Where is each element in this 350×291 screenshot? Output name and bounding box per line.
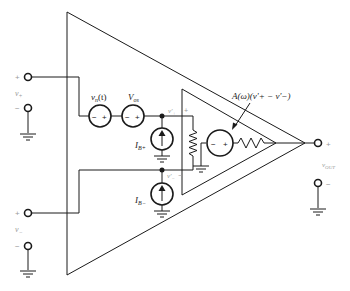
inner-opamp-triangle (182, 89, 276, 195)
svg-text:−: − (92, 113, 97, 122)
svg-text:−: − (125, 113, 130, 122)
bias-plus-label: IB+ (134, 140, 146, 151)
dependent-voltage-source: − + (207, 130, 233, 156)
v-plus-prime-sign: + (184, 107, 188, 114)
v-minus-minus-sign: − (15, 242, 20, 251)
v-minus-plus-sign: + (15, 209, 20, 218)
ground-icon (154, 156, 170, 162)
output-plus-sign: + (326, 140, 331, 149)
output-terminals: + − vOUT (310, 140, 336, 216)
wire-v-minus (32, 170, 163, 213)
v-minus-input: + − v− (15, 209, 36, 277)
svg-text:+: + (135, 113, 140, 122)
v-plus-plus-sign: + (15, 73, 20, 82)
v-plus-ref-terminal[interactable] (25, 105, 32, 112)
ground-icon (193, 166, 209, 172)
ground-icon (154, 211, 170, 217)
v-minus-ref-terminal[interactable] (25, 243, 32, 250)
bias-minus-label: IB− (134, 195, 146, 206)
offset-voltage-source: − + Vos (122, 92, 144, 127)
v-plus-minus-sign: − (15, 104, 20, 113)
v-plus-input: + − v+ (15, 73, 36, 140)
output-ref-terminal[interactable] (315, 180, 322, 187)
bias-current-plus-source: IB+ (134, 116, 173, 162)
ground-icon (310, 209, 326, 215)
output-label: vOUT (322, 161, 336, 170)
svg-text:+: + (102, 113, 107, 122)
noise-voltage-source: − + vn(t) (89, 92, 111, 127)
dependent-source-label: A(ω)(v'+ − v'−) (231, 91, 290, 101)
wire-v-plus (32, 77, 90, 116)
ground-icon (20, 134, 36, 140)
v-minus-label: v− (15, 225, 23, 235)
label-pointer-arrow (235, 103, 250, 126)
output-minus-sign: − (326, 180, 331, 189)
v-minus-terminal[interactable] (25, 210, 32, 217)
output-terminal[interactable] (315, 140, 322, 147)
noise-source-label: vn(t) (91, 92, 107, 103)
v-minus-prime-sign: − (178, 172, 182, 179)
offset-source-label: Vos (128, 92, 140, 103)
op-amp-model-diagram: + − v+ + − v− − + vn(t) − + Vos v'+ (0, 0, 350, 291)
svg-text:+: + (223, 140, 228, 149)
v-plus-terminal[interactable] (25, 74, 32, 81)
v-plus-label: v+ (15, 89, 23, 99)
v-plus-prime-label: v'+ (168, 107, 176, 116)
v-minus-prime-label: v'− (167, 172, 175, 181)
ground-icon (20, 271, 36, 277)
input-resistor (189, 130, 197, 156)
svg-text:−: − (211, 140, 216, 149)
